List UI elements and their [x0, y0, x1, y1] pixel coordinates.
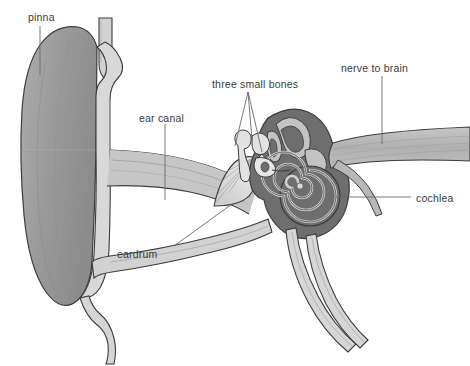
- label-eardrum: eardrum: [117, 249, 158, 260]
- label-pinna: pinna: [28, 12, 55, 23]
- pinna-shape: [20, 27, 98, 306]
- eustachian-tube: [286, 228, 368, 352]
- label-nerve-to-brain: nerve to brain: [341, 63, 408, 74]
- ear-cross-section-illustration: [0, 0, 470, 366]
- ear-anatomy-diagram: pinna ear canal three small bones nerve …: [0, 0, 470, 366]
- label-ear-canal: ear canal: [139, 113, 184, 124]
- label-cochlea: cochlea: [416, 193, 454, 204]
- earlobe-tail: [80, 296, 116, 364]
- label-three-small-bones: three small bones: [212, 79, 298, 90]
